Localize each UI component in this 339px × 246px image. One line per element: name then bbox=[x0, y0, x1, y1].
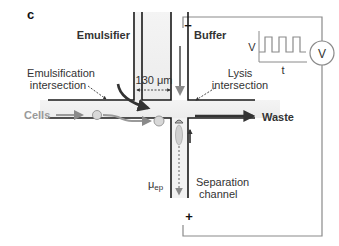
waste-label: Waste bbox=[262, 111, 294, 123]
time-axis-label: t bbox=[281, 64, 284, 76]
emulsification-intersection-label-2: intersection bbox=[30, 79, 86, 91]
microfluidic-diagram: V V t − + c Emulsifier Buffer Emulsifica… bbox=[0, 0, 339, 246]
panel-label: c bbox=[27, 7, 34, 22]
positive-electrode-label: + bbox=[185, 209, 193, 224]
lysis-intersection-label-2: intersection bbox=[212, 79, 268, 91]
encapsulated-cell-icon bbox=[154, 116, 164, 126]
separation-channel-label-2: channel bbox=[199, 188, 238, 200]
cells-label: Cells bbox=[24, 109, 50, 121]
emulsification-intersection-label: Emulsification bbox=[27, 67, 95, 79]
cell-icon bbox=[93, 111, 102, 120]
voltage-axis-label: V bbox=[248, 41, 256, 53]
emulsification-pointer bbox=[88, 86, 106, 99]
emulsifier-label: Emulsifier bbox=[77, 29, 131, 41]
square-wave-icon: V t bbox=[248, 31, 307, 76]
analyte-band bbox=[176, 125, 183, 145]
voltmeter-label: V bbox=[318, 47, 326, 61]
buffer-label: Buffer bbox=[194, 29, 227, 41]
lysis-intersection-label: Lysis bbox=[228, 67, 253, 79]
separation-channel-label: Separation bbox=[196, 176, 249, 188]
electrical-circuit: V V t − + bbox=[183, 17, 334, 236]
mu-ep-label: μep bbox=[148, 178, 164, 192]
width-dimension-label: 130 μm bbox=[136, 74, 173, 86]
